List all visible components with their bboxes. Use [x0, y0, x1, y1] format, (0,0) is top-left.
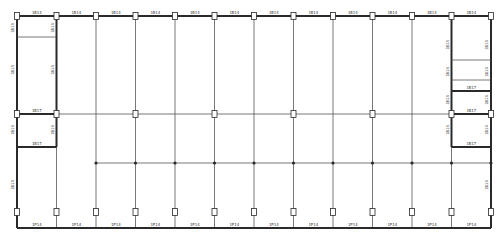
- column-marker: [331, 13, 336, 20]
- beam-label: 1B14: [308, 10, 318, 15]
- beam-label: 1B14: [10, 23, 15, 33]
- beam-label: 1B14: [445, 95, 450, 105]
- beam-label: 1B17: [466, 141, 476, 146]
- beam-label: 1B14: [50, 65, 55, 75]
- column-marker: [133, 13, 138, 20]
- beam-label: 1P14: [150, 222, 160, 227]
- beam-label: 1B14: [445, 40, 450, 50]
- column-marker: [489, 209, 494, 216]
- column-marker: [252, 13, 257, 20]
- beam-joint: [450, 161, 453, 164]
- column-marker: [15, 13, 20, 20]
- beam-label: 1B14: [445, 67, 450, 77]
- beam-label: 1P14: [190, 222, 200, 227]
- column-marker: [449, 13, 454, 20]
- column-marker: [173, 13, 178, 20]
- beam-label: 1B14: [32, 10, 42, 15]
- column-marker: [291, 111, 296, 118]
- beam-joint: [410, 161, 413, 164]
- beam-label: 1B14: [10, 65, 15, 75]
- beam-label: 1P14: [348, 222, 358, 227]
- beam-label: 1B14: [427, 10, 437, 15]
- beam-label: 1P14: [427, 222, 437, 227]
- column-marker: [489, 13, 494, 20]
- beam-label: 1B14: [466, 10, 476, 15]
- column-marker: [370, 13, 375, 20]
- column-marker: [291, 209, 296, 216]
- beam-label: 1B14: [111, 10, 121, 15]
- beam-label: 1B14: [348, 10, 358, 15]
- column-marker: [133, 111, 138, 118]
- column-marker: [54, 209, 59, 216]
- column-marker: [370, 209, 375, 216]
- beam-label: 1B14: [50, 23, 55, 33]
- beam-label: 1B14: [229, 10, 239, 15]
- column-marker: [410, 209, 415, 216]
- beam-label: 1B14: [387, 10, 397, 15]
- beam-label: 1B17: [466, 85, 476, 90]
- column-marker: [212, 111, 217, 118]
- column-marker: [133, 209, 138, 216]
- beam-joint: [173, 161, 176, 164]
- beam-label: 1P14: [229, 222, 239, 227]
- column-marker: [94, 209, 99, 216]
- column-marker: [15, 209, 20, 216]
- beam-label: 1B14: [484, 67, 489, 77]
- column-marker: [449, 209, 454, 216]
- column-marker: [370, 111, 375, 118]
- column-marker: [54, 13, 59, 20]
- beam-joint: [331, 161, 334, 164]
- beam-label: 1B14: [484, 180, 489, 190]
- beam-joint: [213, 161, 216, 164]
- column-marker: [15, 111, 20, 118]
- beam-label: 1B14: [71, 10, 81, 15]
- beam-label: 1P14: [308, 222, 318, 227]
- column-marker: [54, 111, 59, 118]
- beam-label: 1P14: [387, 222, 397, 227]
- column-marker: [410, 13, 415, 20]
- beam-label: 1B14: [445, 125, 450, 135]
- beam-label: 1B14: [150, 10, 160, 15]
- framing-plan: 1B171B171B171B171B171B141P141B141P141B14…: [0, 0, 504, 246]
- column-marker: [212, 13, 217, 20]
- beam-joint: [489, 161, 492, 164]
- column-marker: [331, 209, 336, 216]
- beam-label: 1B17: [466, 108, 476, 113]
- beam-label: 1B17: [32, 141, 42, 146]
- beam-joint: [371, 161, 374, 164]
- beam-label: 1B14: [50, 125, 55, 135]
- column-marker: [489, 111, 494, 118]
- column-marker: [173, 209, 178, 216]
- beam-label: 1P14: [71, 222, 81, 227]
- beam-label: 1B14: [10, 125, 15, 135]
- beam-joint: [134, 161, 137, 164]
- beam-label: 1P14: [269, 222, 279, 227]
- beam-label: 1B14: [484, 95, 489, 105]
- beam-label: 1B14: [190, 10, 200, 15]
- column-marker: [212, 209, 217, 216]
- beam-label: 1B14: [269, 10, 279, 15]
- beam-label: 1P14: [466, 222, 476, 227]
- column-marker: [291, 13, 296, 20]
- column-marker: [449, 111, 454, 118]
- column-marker: [252, 209, 257, 216]
- beam-label: 1B17: [32, 108, 42, 113]
- beam-label: 1B14: [484, 40, 489, 50]
- column-marker: [94, 13, 99, 20]
- beam-label: 1P14: [32, 222, 42, 227]
- beam-joint: [292, 161, 295, 164]
- beam-label: 1B14: [484, 125, 489, 135]
- beam-joint: [94, 161, 97, 164]
- beam-joint: [252, 161, 255, 164]
- beam-label: 1P14: [111, 222, 121, 227]
- beam-label: 1B14: [10, 180, 15, 190]
